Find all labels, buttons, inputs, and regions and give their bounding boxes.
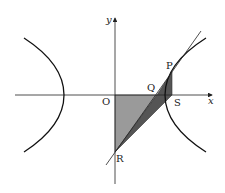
- y-axis-label: y: [105, 14, 112, 25]
- point-p-label: P: [166, 60, 173, 71]
- point-q-label: Q: [147, 82, 155, 93]
- point-r-label: R: [116, 153, 124, 164]
- point-s-label: S: [174, 97, 181, 108]
- x-axis-label: x: [208, 95, 214, 106]
- origin-label: O: [102, 96, 110, 107]
- hyperbola-diagram: y x O P Q S R: [0, 0, 225, 193]
